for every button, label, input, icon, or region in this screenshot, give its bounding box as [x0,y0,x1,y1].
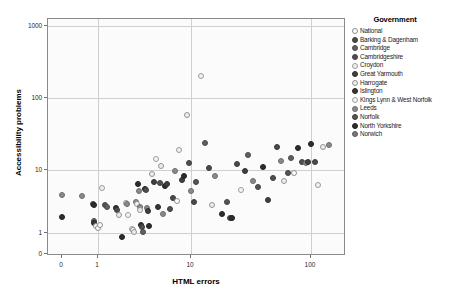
legend-item[interactable]: Norfolk [352,113,455,122]
legend-item[interactable]: National [352,27,455,36]
y-tick-mark [44,25,47,26]
legend-item-label: Cambridgeshire [360,53,403,62]
data-point [172,168,178,174]
data-point [99,185,105,191]
data-point [305,159,311,165]
data-point [167,206,173,212]
data-point [125,212,131,218]
legend-item-label: Barking & Dagenham [360,36,418,45]
legend-item[interactable]: Norwich [352,130,455,139]
scatter-plot-figure: Accessibility problems HTML errors 01101… [0,0,455,303]
data-point [242,168,248,174]
data-point [250,178,256,184]
legend-item[interactable]: Islington [352,87,455,96]
legend-marker-icon [352,97,358,103]
legend-item-label: Harrogate [360,79,387,88]
data-point [79,193,85,199]
x-tick-mark [310,255,311,258]
legend-item[interactable]: North Yorkshire [352,122,455,131]
data-point [295,145,301,151]
legend-items: NationalBarking & DagenhamCambridgeCambr… [352,27,455,139]
y-tick-label: 1000 [2,22,42,29]
x-tick-label: 1 [95,261,99,268]
data-point [143,187,149,193]
gridline-vertical [98,19,99,254]
data-point [119,234,125,240]
data-point [238,187,244,193]
data-point [164,181,170,187]
data-point [155,204,161,210]
data-point [137,207,143,213]
data-point [91,202,97,208]
legend-item[interactable]: Cambridgeshire [352,53,455,62]
gridline-horizontal [48,98,344,99]
gridline-horizontal [48,233,344,234]
data-point [184,112,190,118]
data-point [224,199,230,205]
data-point [145,208,151,214]
data-point [229,215,235,221]
plot-area [47,18,345,255]
legend-marker-icon [352,54,358,60]
data-point [274,144,280,150]
data-point [326,142,332,148]
data-point [59,192,65,198]
x-tick-mark [190,255,191,258]
legend-item[interactable]: Cambridge [352,44,455,53]
legend-item-label: Kings Lynn & West Norfolk [360,96,432,105]
legend-item[interactable]: Great Yarmouth [352,70,455,79]
y-tick-mark [44,169,47,170]
legend-item-label: North Yorkshire [360,122,401,131]
legend-item-label: Islington [360,87,382,96]
legend-item-label: Croydon [360,61,383,70]
gridline-horizontal [48,26,344,27]
data-point [146,223,152,229]
gridline-vertical [311,19,312,254]
legend-item-label: Great Yarmouth [360,70,403,79]
gridline-horizontal [48,170,344,171]
y-tick-label: 0 [2,250,42,257]
data-point [202,140,208,146]
x-tick-mark [61,255,62,258]
data-point [135,181,141,187]
legend-title: Government [352,15,438,24]
data-point [136,188,142,194]
data-point [174,198,180,204]
data-point [209,202,215,208]
legend-marker-icon [352,123,358,129]
data-point [149,171,155,177]
legend-marker-icon [352,80,358,86]
legend-marker-icon [352,71,358,77]
legend-item-label: Cambridge [360,44,390,53]
data-point [285,170,291,176]
data-point [191,199,197,205]
data-point [219,211,225,217]
legend-item-label: Norfolk [360,113,379,122]
data-point [193,179,199,185]
x-tick-label: 0 [59,261,63,268]
data-point [315,182,321,188]
data-point [212,173,218,179]
data-point [97,222,103,228]
y-axis-title: Accessibility problems [14,53,23,213]
data-point [160,211,166,217]
data-point [270,175,276,181]
data-point [288,155,294,161]
legend-marker-icon [352,37,358,43]
data-point [281,178,287,184]
legend-item[interactable]: Kings Lynn & West Norfolk [352,96,455,105]
data-point [308,141,314,147]
data-point [186,160,192,166]
legend-item[interactable]: Harrogate [352,79,455,88]
legend-marker-icon [352,63,358,69]
legend-marker-icon [352,45,358,51]
legend-marker-icon [352,28,358,34]
data-point [140,229,146,235]
legend-item[interactable]: Barking & Dagenham [352,36,455,45]
legend-marker-icon [352,88,358,94]
data-point [104,204,110,210]
legend-item[interactable]: Croydon [352,61,455,70]
legend-item[interactable]: Leeds [352,104,455,113]
data-point [234,161,240,167]
y-tick-label: 10 [2,166,42,173]
